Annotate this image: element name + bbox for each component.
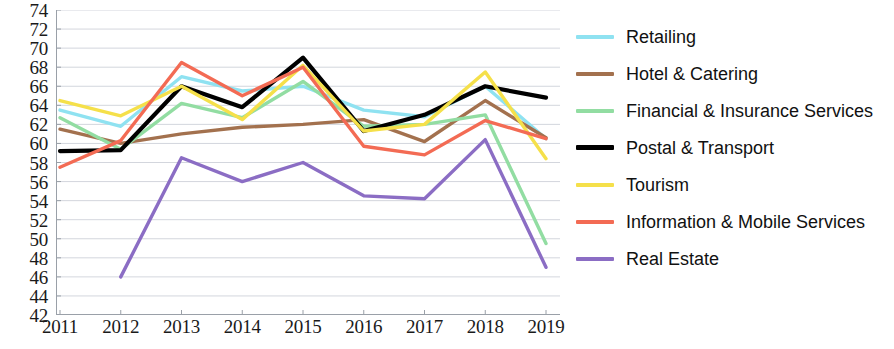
x-tick-label: 2018	[467, 317, 504, 336]
legend-label: Tourism	[626, 176, 689, 194]
series-line	[60, 58, 546, 151]
x-tick-label: 2011	[42, 317, 78, 336]
y-tick-label: 58	[30, 153, 48, 172]
line-chart-figure: 4244464850525456586062646668707274 20112…	[0, 0, 894, 349]
legend-label: Hotel & Catering	[626, 65, 758, 83]
y-tick-label: 70	[30, 39, 48, 58]
legend-item[interactable]: Financial & Insurance Services	[576, 92, 892, 129]
legend-color-swatch	[576, 183, 614, 187]
legend-item[interactable]: Retailing	[576, 18, 892, 55]
y-tick-label: 62	[30, 115, 48, 134]
plot-area	[56, 10, 560, 315]
y-tick-label: 46	[30, 267, 48, 286]
chart-canvas	[56, 10, 560, 315]
legend-item[interactable]: Tourism	[576, 166, 892, 203]
legend-item[interactable]: Postal & Transport	[576, 129, 892, 166]
x-tick-label: 2014	[224, 317, 261, 336]
x-tick-label: 2015	[285, 317, 322, 336]
y-tick-label: 72	[30, 20, 48, 39]
x-tick-label: 2013	[163, 317, 200, 336]
y-tick-label: 54	[30, 191, 48, 210]
y-tick-label: 48	[30, 248, 48, 267]
y-tick-label: 64	[30, 96, 48, 115]
x-axis: 201120122013201420152016201720182019	[56, 315, 560, 349]
y-tick-label: 44	[30, 286, 48, 305]
legend-item[interactable]: Real Estate	[576, 240, 892, 277]
y-axis: 4244464850525456586062646668707274	[0, 10, 52, 315]
legend-label: Information & Mobile Services	[626, 213, 865, 231]
x-tick-label: 2017	[406, 317, 443, 336]
y-tick-label: 52	[30, 210, 48, 229]
legend-color-swatch	[576, 35, 614, 39]
legend-color-swatch	[576, 109, 614, 113]
x-tick-label: 2012	[102, 317, 139, 336]
y-tick-label: 56	[30, 172, 48, 191]
y-tick-label: 68	[30, 58, 48, 77]
legend-color-swatch	[576, 257, 614, 261]
legend-color-swatch	[576, 145, 614, 150]
y-tick-label: 74	[30, 1, 48, 20]
legend-color-swatch	[576, 220, 614, 224]
gridlines	[56, 10, 560, 315]
legend-label: Real Estate	[626, 250, 719, 268]
x-tick-label: 2019	[528, 317, 565, 336]
series-line	[121, 140, 546, 277]
y-tick-label: 50	[30, 229, 48, 248]
legend-item[interactable]: Hotel & Catering	[576, 55, 892, 92]
legend-color-swatch	[576, 72, 614, 76]
y-tick-label: 66	[30, 77, 48, 96]
chart-legend: RetailingHotel & CateringFinancial & Ins…	[576, 18, 892, 277]
legend-label: Financial & Insurance Services	[626, 102, 873, 120]
legend-label: Retailing	[626, 28, 696, 46]
y-tick-label: 60	[30, 134, 48, 153]
x-tick-label: 2016	[345, 317, 382, 336]
legend-label: Postal & Transport	[626, 139, 774, 157]
series-lines	[60, 58, 546, 277]
series-line	[60, 65, 546, 158]
legend-item[interactable]: Information & Mobile Services	[576, 203, 892, 240]
